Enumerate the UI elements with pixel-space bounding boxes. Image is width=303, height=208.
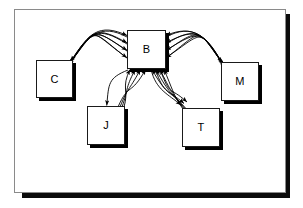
node-label-J: J — [103, 120, 109, 131]
edge-arrow — [107, 70, 128, 106]
edge-arrow — [122, 70, 135, 108]
edge-arrow — [166, 36, 225, 67]
edge-arrow — [160, 70, 187, 102]
node-M[interactable]: M — [221, 62, 259, 101]
edge-arrow — [166, 35, 224, 66]
edge-arrow — [71, 31, 127, 61]
edge-arrow — [70, 33, 127, 62]
edge-arrow — [68, 35, 127, 65]
diagram-screenshot: B C M J T — [0, 0, 303, 208]
node-C[interactable]: C — [36, 60, 73, 98]
node-B[interactable]: B — [127, 30, 166, 69]
node-label-T: T — [198, 122, 205, 133]
edge-arrow — [156, 70, 184, 104]
node-label-C: C — [50, 74, 58, 85]
node-T[interactable]: T — [182, 108, 220, 147]
node-label-M: M — [235, 76, 244, 87]
node-label-B: B — [143, 44, 151, 55]
edge-arrow — [120, 70, 140, 108]
edge-arrow — [166, 37, 226, 68]
node-J[interactable]: J — [87, 106, 125, 145]
